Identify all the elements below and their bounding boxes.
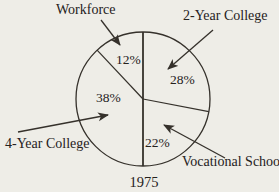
pie-chart-figure: Workforce 2-Year College 4-Year College … (0, 0, 279, 192)
slice-percent-4-year-college: 38% (96, 91, 121, 105)
slice-boundary (143, 99, 209, 112)
callout-arrow-2-year-college (168, 30, 213, 69)
callout-arrow-4-year-college (18, 115, 108, 132)
slice-label-4-year-college: 4-Year College (5, 137, 90, 151)
slice-label-vocational-school: Vocational School (182, 155, 279, 169)
chart-year-caption: 1975 (124, 175, 164, 190)
callout-arrow-workforce (101, 20, 120, 45)
slice-label-workforce: Workforce (56, 3, 116, 17)
slice-percent-2-year-college: 28% (170, 73, 195, 87)
slice-percent-vocational-school: 22% (145, 136, 170, 150)
slice-label-2-year-college: 2-Year College (183, 9, 268, 23)
slice-percent-workforce: 12% (116, 53, 141, 67)
